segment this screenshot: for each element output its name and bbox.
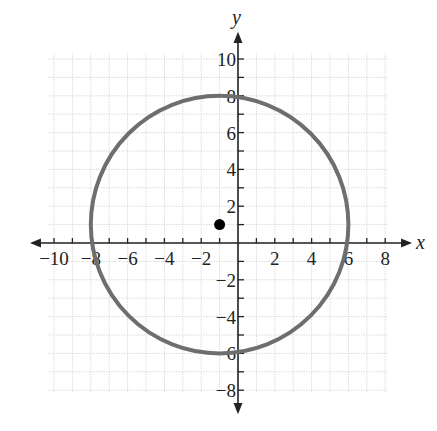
y-tick-label: −2 xyxy=(216,270,236,291)
y-tick-label: 10 xyxy=(217,49,236,70)
x-axis-label: x xyxy=(415,231,425,253)
y-tick-label: 6 xyxy=(227,123,237,144)
y-axis-label: y xyxy=(230,6,241,29)
x-tick-label: −2 xyxy=(191,248,211,269)
x-tick-label: −4 xyxy=(154,248,175,269)
x-tick-label: −10 xyxy=(39,248,69,269)
x-tick-label: 2 xyxy=(270,248,280,269)
center-point xyxy=(214,219,225,230)
y-tick-label: 2 xyxy=(227,196,237,217)
x-tick-label: 4 xyxy=(307,248,317,269)
y-tick-label: −4 xyxy=(216,307,237,328)
coordinate-plane: −10−8−6−4−22468108642−2−4−6−8 x y xyxy=(0,0,437,431)
x-tick-label: 8 xyxy=(380,248,390,269)
y-tick-label: −8 xyxy=(216,380,236,401)
x-tick-label: −6 xyxy=(117,248,137,269)
y-tick-label: 4 xyxy=(227,159,237,180)
